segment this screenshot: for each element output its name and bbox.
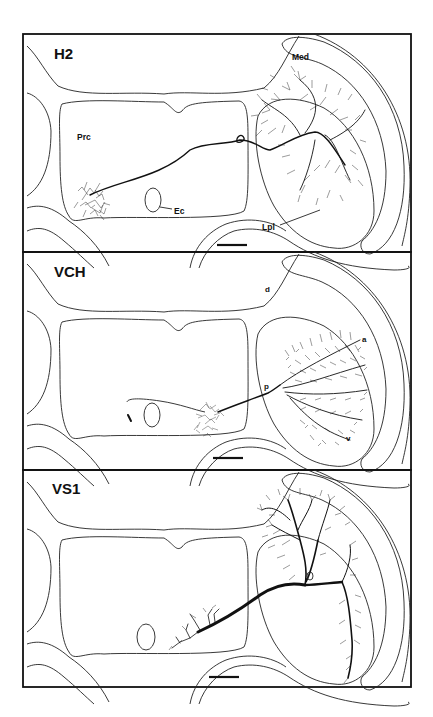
panel-title-h2: H2 [54,45,73,62]
esophageal-canal-shape-vs1 [137,624,155,650]
panel-vch-frame [23,252,411,470]
neuron-figure: H2 Med Prc Ec Lpl VCH d a p v [0,0,433,717]
vs1-axon-main [305,582,342,585]
panel-title-vch: VCH [54,263,86,280]
vs1-output-arbor [169,605,219,650]
esophageal-canal-shape [145,188,161,212]
vch-axon [218,385,280,412]
label-anterior: a [362,335,367,344]
h2-axon [90,132,345,195]
vch-soma [128,415,131,421]
label-med: Med [292,52,309,62]
esophageal-canal-shape-vch [144,403,160,427]
panel-vs1-frame [23,470,411,687]
brain-outline-vs1 [27,470,410,706]
vs1-axon [198,584,305,632]
label-prc: Prc [77,132,91,142]
vch-output-arbor [194,402,224,437]
vch-dendritic-field [280,330,367,446]
ec-leader-line [160,207,172,209]
h2-dendritic-field [251,66,366,205]
lpl-leader-line [280,210,320,225]
label-dorsal: d [265,285,270,294]
h2-terminal-arbor [74,182,110,220]
panel-h2: H2 Med Prc Ec Lpl [23,34,411,270]
vch-fine-fiber [127,399,205,412]
panel-vch: VCH d a p v [23,252,411,488]
panel-title-vs1: VS1 [52,480,80,497]
label-ec: Ec [174,206,185,216]
panel-vs1: VS1 [23,470,411,706]
brain-outline-vch [27,252,410,488]
label-posterior: p [264,382,269,391]
label-lpl: Lpl [262,222,275,232]
